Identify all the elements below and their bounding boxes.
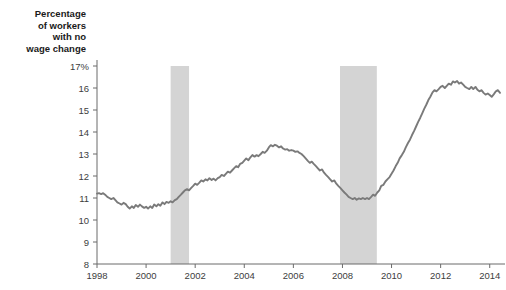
y-tick-label-15: 15 bbox=[78, 105, 89, 116]
x-tick-label-1998: 1998 bbox=[86, 270, 107, 281]
recession-band-recession-2008 bbox=[340, 66, 377, 264]
y-tick-label-13: 13 bbox=[78, 149, 89, 160]
x-tick-label-2000: 2000 bbox=[136, 270, 157, 281]
y-tick-label-17%: 17% bbox=[70, 61, 90, 72]
y-tick-label-11: 11 bbox=[79, 193, 89, 204]
chart-figure: Percentage of workers with no wage chang… bbox=[0, 0, 506, 290]
x-tick-label-2014: 2014 bbox=[479, 270, 500, 281]
y-tick-label-9: 9 bbox=[84, 237, 89, 248]
x-tick-label-2008: 2008 bbox=[332, 270, 353, 281]
x-tick-label-2006: 2006 bbox=[283, 270, 304, 281]
y-tick-label-12: 12 bbox=[78, 171, 89, 182]
data-series-group bbox=[97, 81, 500, 209]
x-tick-label-2012: 2012 bbox=[430, 270, 451, 281]
y-tick-label-14: 14 bbox=[78, 127, 89, 138]
x-tick-label-2004: 2004 bbox=[234, 270, 255, 281]
x-tick-label-2010: 2010 bbox=[381, 270, 402, 281]
y-tick-label-10: 10 bbox=[78, 215, 89, 226]
y-tick-label-8: 8 bbox=[84, 259, 89, 270]
line-chart-plot: 17%1615141312111098199820002002200420062… bbox=[0, 0, 506, 290]
data-line-series-0 bbox=[97, 81, 500, 209]
recession-band-recession-2001 bbox=[171, 66, 189, 264]
y-tick-label-16: 16 bbox=[78, 83, 89, 94]
recession-bands-group bbox=[171, 66, 377, 264]
tick-labels-group: 17%1615141312111098199820002002200420062… bbox=[70, 61, 500, 282]
plot-axes-group bbox=[97, 60, 505, 264]
x-tick-label-2002: 2002 bbox=[185, 270, 206, 281]
